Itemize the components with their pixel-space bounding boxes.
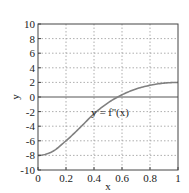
chart: 00.20.40.60.81 -10-8-6-4-20246810 x y y … [0, 0, 189, 193]
x-tick-label: 0.6 [115, 172, 129, 184]
y-tick-label: 0 [30, 91, 36, 103]
y-tick-label: 2 [30, 76, 36, 88]
x-tick-label: 0.4 [87, 172, 101, 184]
y-tick-label: -8 [26, 149, 36, 161]
x-tick-label: 1 [175, 172, 181, 184]
x-tick-label: 0.2 [59, 172, 73, 184]
y-tick-label: 4 [30, 62, 36, 74]
y-tick-label: 10 [24, 18, 36, 30]
series-line-f-double-prime [38, 82, 178, 155]
x-tick-label: 0.8 [143, 172, 157, 184]
y-axis-label: y [9, 94, 21, 100]
y-tick-label: -10 [20, 164, 35, 176]
y-tick-label: 8 [30, 33, 36, 45]
y-tick-label: -2 [26, 106, 35, 118]
y-tick-label: 6 [30, 47, 36, 59]
x-axis-label: x [105, 180, 111, 192]
y-tick-label: -6 [26, 135, 36, 147]
x-tick-label: 0 [35, 172, 41, 184]
y-tick-label: -4 [26, 120, 36, 132]
curve-annotation: y = f''(x) [91, 106, 129, 119]
